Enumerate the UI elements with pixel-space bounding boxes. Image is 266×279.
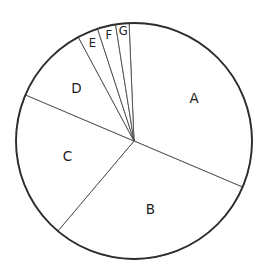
slice-label-f: F <box>105 28 112 42</box>
pie-chart-canvas: A B C D E F G <box>0 0 266 279</box>
slice-label-b: B <box>146 201 155 217</box>
pie-chart: A B C D E F G <box>0 0 266 279</box>
pie-slices-group <box>16 23 252 259</box>
slice-label-c: C <box>63 148 72 164</box>
slice-label-g: G <box>119 24 128 38</box>
slice-label-e: E <box>89 36 96 50</box>
slice-label-a: A <box>189 90 199 106</box>
slice-label-d: D <box>71 80 81 96</box>
